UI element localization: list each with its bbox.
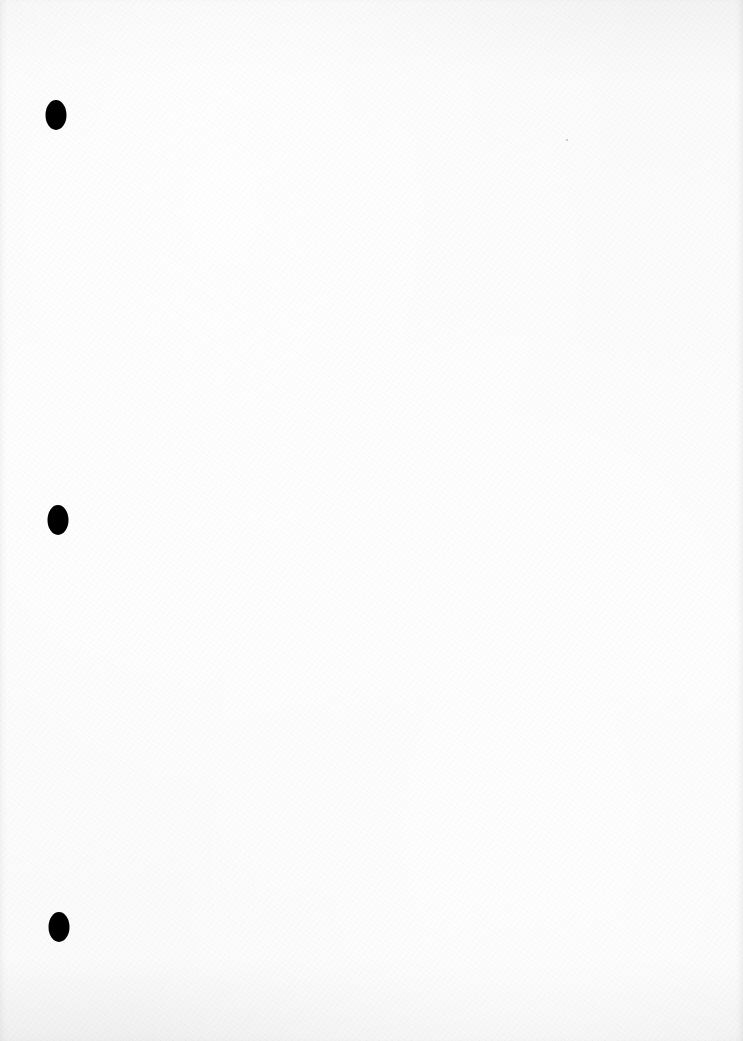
punch-hole-bottom (49, 912, 70, 942)
paper-texture (0, 0, 743, 1041)
punch-hole-top (46, 100, 67, 130)
blank-paper-sheet (0, 0, 743, 1041)
punch-hole-middle (48, 505, 69, 535)
paper-speck (566, 139, 568, 141)
